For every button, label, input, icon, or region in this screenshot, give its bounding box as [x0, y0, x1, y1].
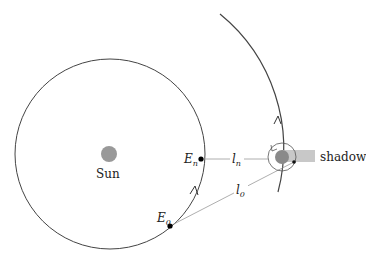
orbit-diagram: Sun shadow En E0 ln l0 — [0, 0, 366, 266]
sun-label: Sun — [96, 167, 120, 181]
point-E-n — [198, 156, 203, 161]
diagram-canvas: Sun shadow En E0 ln l0 — [0, 0, 366, 266]
label-E-n: En — [183, 152, 198, 168]
label-E-0: E0 — [156, 211, 171, 227]
line-l-0 — [170, 162, 294, 226]
planet-icon — [275, 150, 289, 164]
outer-orbit-arrow-icon — [274, 116, 281, 124]
shadow-label: shadow — [320, 150, 366, 164]
sun-icon — [101, 146, 117, 162]
outer-orbit-arc — [220, 14, 284, 192]
planet-contact-dot — [292, 160, 296, 164]
